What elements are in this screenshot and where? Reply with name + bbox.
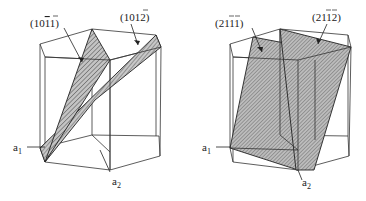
label-plane-2-1-1-2: (2112) [312,11,341,24]
label-a2-right: a2 [302,176,311,191]
left-hexagonal-prism [27,24,161,172]
label-plane-2-1-1-1: (2111) [215,17,244,30]
crystal-planes-figure: (1011) (1012) a1 a2 [0,0,366,201]
figure-svg: (1011) (1012) a1 a2 [0,0,366,201]
leader-10-11 [64,28,82,62]
right-hexagonal-prism [216,24,351,180]
label-plane-10-12: (1012) [120,11,150,24]
label-a2-left: a2 [112,175,121,190]
label-a1-right: a1 [202,141,211,156]
label-a1-left: a1 [13,141,22,156]
label-plane-10-11: (1011) [30,17,59,30]
